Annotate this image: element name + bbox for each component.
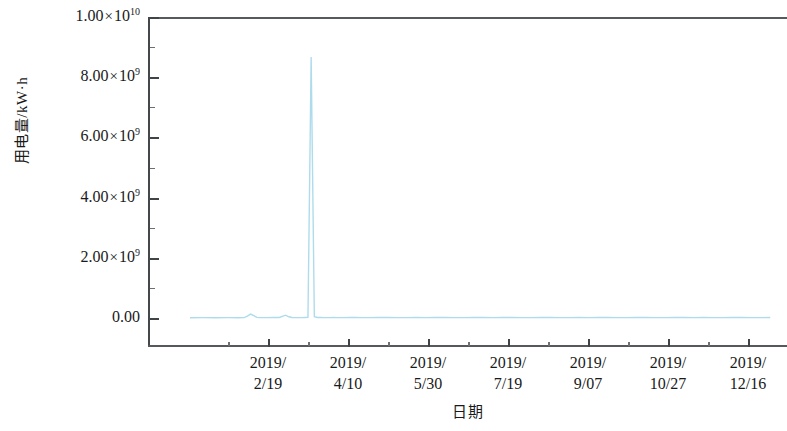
- chart-figure: 用电量/kW·h 0.002.00×1094.00×1096.00×1098.0…: [0, 0, 787, 431]
- x-tick-label-year: 2019/: [383, 352, 473, 373]
- x-axis-tick-label: 2019/7/19: [463, 352, 553, 394]
- x-tick-label-year: 2019/: [623, 352, 713, 373]
- x-axis-tick-mark: [508, 339, 510, 347]
- x-tick-label-year: 2019/: [303, 352, 393, 373]
- y-axis-minor-tick: [150, 107, 155, 108]
- x-axis-minor-tick: [228, 342, 230, 346]
- x-axis-tick-label: 2019/5/30: [383, 352, 473, 394]
- y-axis-minor-tick: [150, 228, 155, 229]
- x-axis-tick-label: 2019/10/27: [623, 352, 713, 394]
- y-axis-tick-mark: [150, 137, 159, 139]
- x-tick-label-year: 2019/: [463, 352, 553, 373]
- x-axis-minor-tick: [468, 342, 470, 346]
- y-axis-minor-tick: [150, 168, 155, 169]
- x-tick-label-day: 10/27: [623, 373, 713, 394]
- x-tick-label-day: 5/30: [383, 373, 473, 394]
- x-axis-tick-label: 2019/9/07: [543, 352, 633, 394]
- x-axis-tick-mark: [428, 339, 430, 347]
- x-tick-label-year: 2019/: [703, 352, 787, 373]
- y-axis-tick-labels: 0.002.00×1094.00×1096.00×1098.00×1091.00…: [28, 0, 140, 431]
- x-axis-minor-tick: [308, 342, 310, 346]
- x-axis-minor-tick: [708, 342, 710, 346]
- x-tick-label-year: 2019/: [223, 352, 313, 373]
- y-axis-minor-tick: [150, 288, 155, 289]
- y-axis-tick-mark: [150, 77, 159, 79]
- y-axis-tick-mark: [150, 318, 159, 320]
- x-tick-label-day: 4/10: [303, 373, 393, 394]
- x-axis-tick-mark: [348, 339, 350, 347]
- x-tick-label-day: 9/07: [543, 373, 633, 394]
- x-axis-tick-mark: [588, 339, 590, 347]
- y-axis-tick-mark: [150, 17, 159, 19]
- y-axis-tick-mark: [150, 258, 159, 260]
- x-axis-minor-tick: [388, 342, 390, 346]
- x-tick-label-year: 2019/: [543, 352, 633, 373]
- x-tick-label-day: 2/19: [223, 373, 313, 394]
- y-axis-tick-mark: [150, 198, 159, 200]
- x-axis-title: 日期: [148, 400, 787, 421]
- y-axis-tick-label: 8.00×109: [30, 68, 140, 84]
- x-axis-minor-tick: [628, 342, 630, 346]
- y-axis-tick-label: 0.00: [30, 309, 140, 325]
- x-axis-minor-tick: [548, 342, 550, 346]
- x-axis-tick-label: 2019/4/10: [303, 352, 393, 394]
- x-axis-tick-label: 2019/2/19: [223, 352, 313, 394]
- x-axis-tick-mark: [668, 339, 670, 347]
- y-axis-tick-label: 4.00×109: [30, 189, 140, 205]
- x-tick-label-day: 12/16: [703, 373, 787, 394]
- x-axis-tick-mark: [748, 339, 750, 347]
- data-series-line: [148, 17, 787, 347]
- plot-area: [148, 17, 787, 347]
- x-axis-tick-label: 2019/12/16: [703, 352, 787, 394]
- x-tick-label-day: 7/19: [463, 373, 553, 394]
- y-axis-minor-tick: [150, 47, 155, 48]
- y-axis-tick-label: 6.00×109: [30, 128, 140, 144]
- y-axis-tick-label: 1.00×1010: [30, 8, 140, 24]
- x-axis-tick-mark: [268, 339, 270, 347]
- series-polyline: [190, 57, 770, 318]
- x-axis-tick-labels: 2019/2/192019/4/102019/5/302019/7/192019…: [148, 352, 787, 398]
- y-axis-tick-label: 2.00×109: [30, 249, 140, 265]
